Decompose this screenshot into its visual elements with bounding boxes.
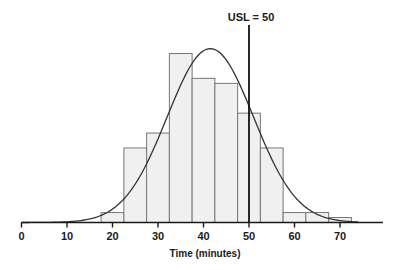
x-axis-ticks: 010203040506070 [18, 223, 346, 242]
histogram-bar [169, 54, 192, 223]
histogram-bar [124, 148, 147, 223]
usl-label: USL = 50 [228, 11, 275, 23]
histogram-bar [215, 83, 238, 222]
x-tick-label: 40 [197, 230, 209, 242]
histogram-chart: USL = 50 010203040506070 Time (minutes) [0, 0, 401, 270]
histogram-bar [147, 133, 170, 222]
x-tick-label: 70 [334, 230, 346, 242]
x-tick-label: 20 [106, 230, 118, 242]
x-tick-label: 10 [61, 230, 73, 242]
histogram-bar [192, 78, 215, 222]
x-tick-label: 60 [288, 230, 300, 242]
histogram-bar [283, 213, 306, 223]
x-tick-label: 0 [18, 230, 24, 242]
histogram-bars [101, 54, 351, 223]
x-tick-label: 30 [152, 230, 164, 242]
x-tick-label: 50 [243, 230, 255, 242]
x-axis-title: Time (minutes) [170, 248, 241, 259]
